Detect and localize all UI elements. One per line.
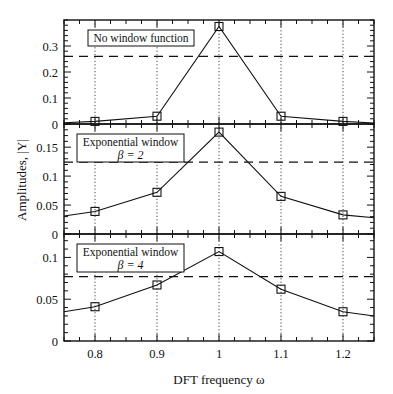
panel-1: 00.10.20.3No window function [42,20,374,132]
legend-beta: β = 4 [116,258,143,272]
panel-2: 00.050.10.15Exponential windowβ = 2 [36,124,374,242]
y-tick-label: 0 [52,118,58,132]
x-tick-label: 0.8 [87,347,103,361]
x-tick-label: 1.1 [273,347,289,361]
x-axis-label: DFT frequency ω [173,372,265,387]
panels: 00.10.20.3No window function00.050.10.15… [36,20,374,349]
chart: 00.10.20.3No window function00.050.10.15… [0,0,393,394]
y-tick-label: 0.1 [42,92,58,106]
y-tick-label: 0 [52,335,58,349]
y-tick-label: 0.05 [36,293,58,307]
y-tick-label: 0.15 [36,141,58,155]
legend-beta: β = 2 [116,148,143,162]
y-tick-label: 0 [52,228,58,242]
x-axis: 0.80.911.11.2 [87,347,351,361]
x-tick-label: 1 [216,347,222,361]
y-tick-label: 0.1 [42,170,58,184]
panel-3: 00.050.1Exponential windowβ = 4 [36,234,374,349]
legend-title: No window function [93,32,188,44]
x-tick-label: 0.9 [149,347,165,361]
x-tick-label: 1.2 [335,347,351,361]
y-tick-label: 0.05 [36,199,58,213]
y-tick-label: 0.1 [42,251,58,265]
y-tick-label: 0.2 [42,66,58,80]
y-tick-label: 0.3 [42,40,58,54]
y-axis-label: Amplitudes, |Y| [14,139,29,221]
